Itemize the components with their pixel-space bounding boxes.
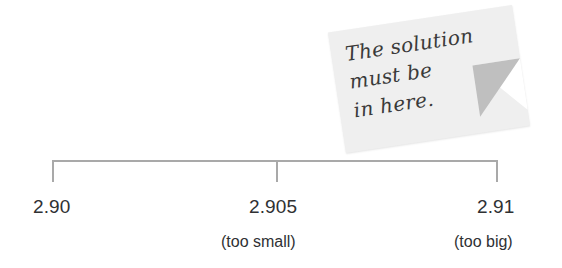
axis-annotation-too-big: (too big) xyxy=(454,234,513,250)
axis-label-left: 2.90 xyxy=(33,197,70,216)
axis-annotation-too-small: (too small) xyxy=(221,234,296,250)
tick-mark-right xyxy=(496,160,498,182)
number-line-axis xyxy=(52,160,498,162)
tick-mark-left xyxy=(52,160,54,182)
axis-label-middle: 2.905 xyxy=(249,197,297,216)
sticky-note-paper: The solution must be in here. xyxy=(328,5,530,153)
tick-mark-middle xyxy=(276,160,278,182)
number-line-figure: 2.90 2.905 2.91 (too small) (too big) Th… xyxy=(0,0,562,268)
sticky-note-callout: The solution must be in here. xyxy=(336,18,536,158)
axis-label-right: 2.91 xyxy=(477,197,514,216)
